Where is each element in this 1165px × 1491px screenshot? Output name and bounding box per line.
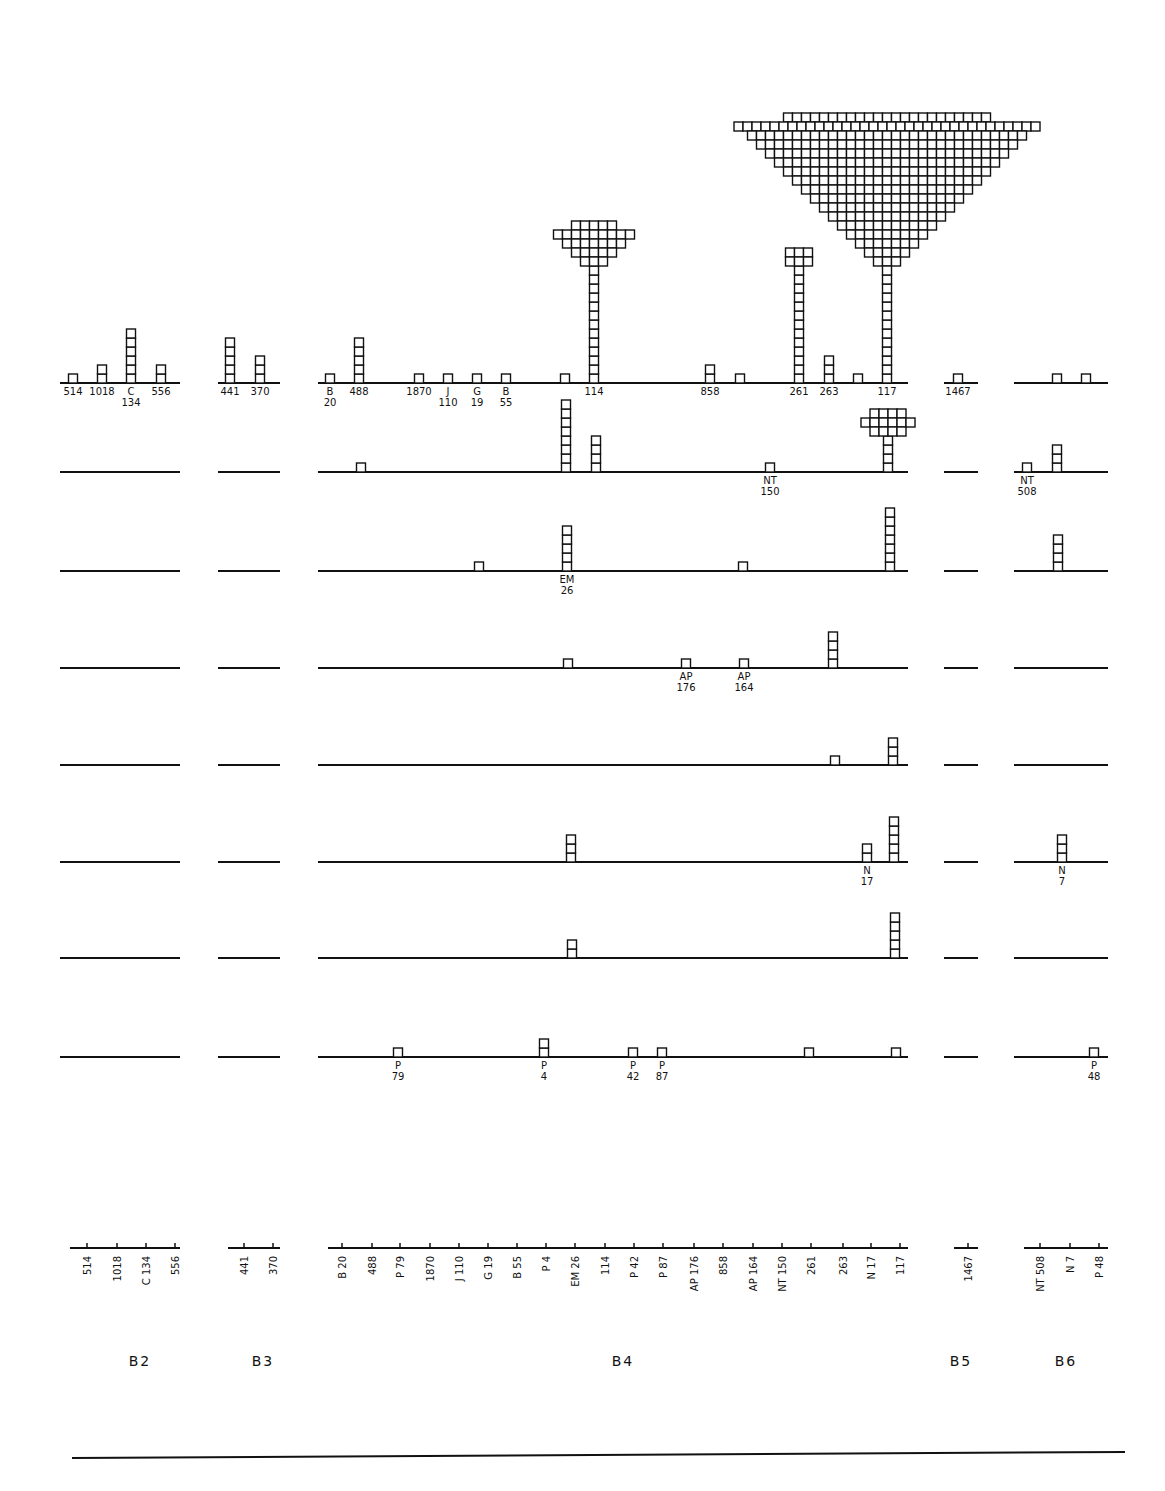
cell [1000,140,1009,149]
axis-tick-label: NT 150 [777,1256,788,1292]
cell [786,257,795,266]
cell [977,122,986,131]
cell [865,230,874,239]
footer-rule [72,1452,1125,1458]
cell [955,149,964,158]
cell [874,194,883,203]
cell [157,374,166,383]
cell [874,230,883,239]
cell [788,122,797,131]
cell [838,158,847,167]
cell [910,194,919,203]
cell [829,185,838,194]
axis-tick-label: J 110 [454,1256,465,1282]
cell [955,176,964,185]
bar-label: 48 [1088,1071,1101,1082]
cell [1054,562,1063,571]
cell [567,835,576,844]
cell [502,374,511,383]
cell [795,338,804,347]
cell [890,817,899,826]
bar-label: 263 [819,386,838,397]
cell [883,338,892,347]
cell [1054,544,1063,553]
cell [793,176,802,185]
axis-tick-label: NT 508 [1035,1256,1046,1292]
cell [883,167,892,176]
cell [874,158,883,167]
cell [870,418,879,427]
cell [883,230,892,239]
cell [757,140,766,149]
cell [874,113,883,122]
cell [795,356,804,365]
cell [355,347,364,356]
cell [572,239,581,248]
cell [950,122,959,131]
cell [897,418,906,427]
cell [883,302,892,311]
axis-tick-label: P 42 [629,1256,640,1278]
cell [928,113,937,122]
cell [838,203,847,212]
cell [682,659,691,668]
cell [226,347,235,356]
cell [568,949,577,958]
cell [824,122,833,131]
cell [1053,454,1062,463]
cell [592,445,601,454]
cell [1031,122,1040,131]
cell [901,248,910,257]
cell [592,454,601,463]
cell [883,266,892,275]
cell [874,167,883,176]
cell [590,275,599,284]
cell [879,427,888,436]
cell [888,418,897,427]
cell [874,221,883,230]
bar-label: 42 [627,1071,640,1082]
cell [955,167,964,176]
cell [793,167,802,176]
cell [883,221,892,230]
cell [562,454,571,463]
axis-tick-label: 1018 [112,1256,123,1281]
cell [706,374,715,383]
cell [1023,463,1032,472]
cell [964,149,973,158]
cell [256,356,265,365]
cell [617,239,626,248]
cell [982,167,991,176]
cell [891,940,900,949]
cell [795,257,804,266]
cell [946,131,955,140]
cell [563,535,572,544]
cell [919,212,928,221]
cell [955,131,964,140]
cell [581,230,590,239]
cell [795,266,804,275]
cell [928,149,937,158]
cell [838,149,847,158]
cell [883,248,892,257]
cell [883,329,892,338]
cell [919,203,928,212]
cell [856,167,865,176]
cell [815,122,824,131]
cell [888,409,897,418]
cell [775,149,784,158]
cell [884,463,893,472]
axis-tick-label: 514 [82,1256,93,1275]
cell [847,230,856,239]
axis-tick-label: B 20 [337,1256,348,1279]
cell [919,185,928,194]
bar-label: B [503,386,510,397]
cell [226,356,235,365]
cell [955,158,964,167]
cell [946,185,955,194]
axis-tick-label: 556 [170,1256,181,1275]
cell [901,176,910,185]
bar-label: 26 [561,585,574,596]
bar-label: 134 [121,397,140,408]
cell [256,374,265,383]
